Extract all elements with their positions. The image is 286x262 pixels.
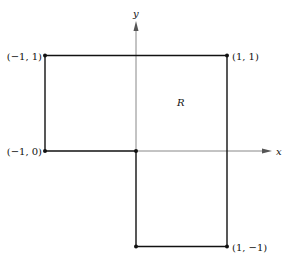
vertex-label-top-left: (−1, 1) bbox=[7, 51, 42, 62]
region-label: R bbox=[176, 97, 185, 108]
vertex-dot-bottom-right bbox=[225, 245, 229, 249]
vertex-label-top-right: (1, 1) bbox=[232, 51, 259, 62]
vertex-dot-bottom-middle bbox=[134, 245, 138, 249]
y-axis-arrow-icon bbox=[134, 21, 139, 31]
vertex-dot-top-left bbox=[43, 54, 47, 58]
y-axis-label: y bbox=[132, 8, 139, 19]
vertex-label-left-middle: (−1, 0) bbox=[7, 146, 42, 157]
vertex-label-bottom-right: (1, −1) bbox=[232, 242, 267, 253]
x-axis-label: x bbox=[276, 146, 282, 157]
vertex-dot-top-right bbox=[225, 54, 229, 58]
axes: x y bbox=[132, 8, 282, 157]
region-diagram: x y R (−1, 1) (1, 1) (1, −1) (−1, 0) bbox=[0, 0, 286, 262]
vertex-dot-origin bbox=[134, 149, 138, 153]
x-axis-arrow-icon bbox=[262, 149, 272, 154]
vertex-dot-left-middle bbox=[43, 149, 47, 153]
